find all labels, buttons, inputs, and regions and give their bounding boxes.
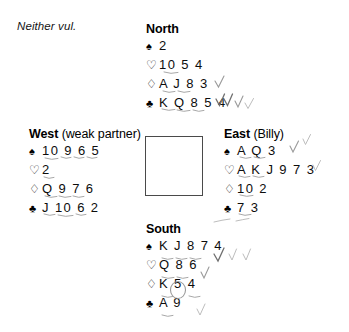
hand-north: North ♠ 2 ♡ 10 5 4 ♢ A J 8 3 ♣ K Q 8 5 4: [146, 22, 227, 114]
spade-icon: ♠: [29, 146, 42, 157]
heart-icon: ♡: [146, 260, 159, 272]
hand-east-label: East (Billy): [224, 127, 315, 141]
spade-icon: ♠: [224, 146, 237, 157]
north-diamond-cards: A J 8 3: [159, 76, 209, 91]
hand-west-name: West: [29, 127, 58, 141]
south-diamond-cards: K 5 4: [159, 276, 196, 291]
hand-north-name: North: [146, 22, 179, 36]
pencil-check-mark: [243, 249, 251, 260]
west-club-row: ♣ J 10 6 2: [29, 200, 141, 219]
east-club-cards: 7 3: [237, 200, 259, 215]
hand-south: South ♠ K J 8 7 4 ♡ Q 8 6 ♢ K 5 4 ♣ A 9: [146, 222, 223, 314]
west-club-cards: J 10 6 2: [42, 200, 99, 215]
west-heart-cards: 2: [42, 162, 51, 177]
west-spade-cards: 10 9 6 5: [42, 143, 100, 158]
east-club-row: ♣ 7 3: [224, 200, 315, 219]
west-diamond-row: ♢ Q 9 7 6: [29, 181, 141, 200]
south-heart-cards: Q 8 6: [159, 257, 198, 272]
north-club-cards: K Q 8 5 4: [159, 95, 227, 110]
north-heart-row: ♡ 10 5 4: [146, 57, 227, 76]
south-club-cards: A 9: [159, 295, 182, 310]
south-spade-cards: K J 8 7 4: [159, 238, 223, 253]
south-spade-row: ♠ K J 8 7 4: [146, 238, 223, 257]
center-contract-box: [145, 136, 203, 196]
east-diamond-cards: 10 2: [237, 181, 268, 196]
hand-north-label: North: [146, 22, 227, 36]
east-diamond-row: ♢ 10 2: [224, 181, 315, 200]
hand-east-qualifier: (Billy): [253, 127, 284, 141]
heart-icon: ♡: [29, 165, 42, 177]
diamond-icon: ♢: [146, 279, 159, 291]
north-spade-cards: 2: [159, 38, 168, 53]
hand-east-name: East: [224, 127, 250, 141]
spade-icon: ♠: [146, 41, 159, 52]
pencil-check-mark: [229, 249, 237, 260]
north-club-row: ♣ K Q 8 5 4: [146, 95, 227, 114]
heart-icon: ♡: [224, 165, 237, 177]
diamond-icon: ♢: [29, 184, 42, 196]
hand-west: West (weak partner) ♠ 10 9 6 5 ♡ 2 ♢ Q 9…: [29, 127, 141, 219]
south-club-row: ♣ A 9: [146, 295, 223, 314]
north-diamond-row: ♢ A J 8 3: [146, 76, 227, 95]
club-icon: ♣: [146, 298, 159, 309]
heart-icon: ♡: [146, 60, 159, 72]
bridge-deal-diagram: Neither vul. North ♠ 2 ♡ 10 5 4 ♢ A J 8 …: [0, 0, 349, 332]
club-icon: ♣: [224, 203, 237, 214]
club-icon: ♣: [146, 98, 159, 109]
north-spade-row: ♠ 2: [146, 38, 227, 57]
west-diamond-cards: Q 9 7 6: [42, 181, 94, 196]
pencil-check-mark: [245, 99, 254, 109]
south-diamond-row: ♢ K 5 4: [146, 276, 223, 295]
hand-east: East (Billy) ♠ A Q 3 ♡ A K J 9 7 3 ♢ 10 …: [224, 127, 315, 219]
hand-south-name: South: [146, 222, 181, 236]
club-icon: ♣: [29, 203, 42, 214]
north-heart-cards: 10 5 4: [159, 57, 204, 72]
east-heart-row: ♡ A K J 9 7 3: [224, 162, 315, 181]
diamond-icon: ♢: [146, 79, 159, 91]
east-spade-cards: A Q 3: [237, 143, 277, 158]
south-heart-row: ♡ Q 8 6: [146, 257, 223, 276]
west-spade-row: ♠ 10 9 6 5: [29, 143, 141, 162]
east-heart-cards: A K J 9 7 3: [237, 162, 315, 177]
pencil-underline: [162, 315, 173, 316]
west-heart-row: ♡ 2: [29, 162, 141, 181]
hand-south-label: South: [146, 222, 223, 236]
pencil-check-mark: [235, 96, 243, 107]
hand-west-qualifier: (weak partner): [62, 127, 141, 141]
diamond-icon: ♢: [224, 184, 237, 196]
east-spade-row: ♠ A Q 3: [224, 143, 315, 162]
vulnerability-note: Neither vul.: [17, 20, 76, 32]
hand-west-label: West (weak partner): [29, 127, 141, 141]
spade-icon: ♠: [146, 241, 159, 252]
